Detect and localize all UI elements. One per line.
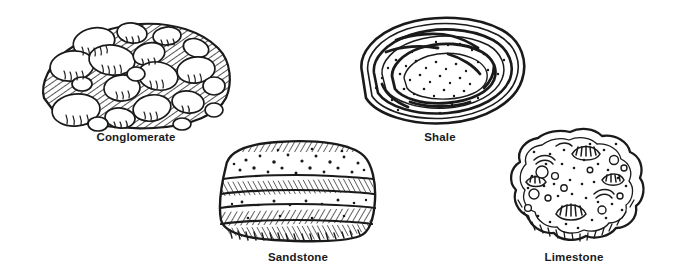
label-limestone: Limestone: [498, 250, 650, 264]
diagram-canvas: Conglomerate: [0, 0, 677, 278]
limestone-rock-icon: [498, 124, 650, 246]
specimen-conglomerate: [36, 14, 236, 132]
sandstone-rock-icon: [212, 134, 384, 244]
specimen-shale: [352, 14, 528, 126]
specimen-limestone: [498, 124, 650, 246]
label-sandstone: Sandstone: [212, 250, 384, 264]
specimen-sandstone: [212, 134, 384, 244]
conglomerate-rock-icon: [36, 14, 236, 132]
label-conglomerate: Conglomerate: [36, 130, 236, 144]
shale-rock-icon: [352, 14, 528, 126]
